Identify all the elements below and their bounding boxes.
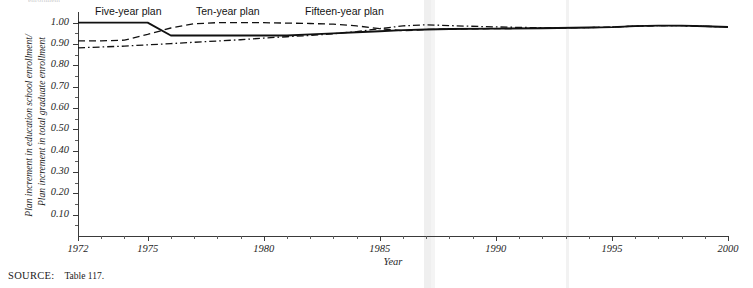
source-keyword: SOURCE: (8, 270, 54, 281)
series-line-five-year-plan (78, 23, 728, 36)
figure-panel: enrollment 1.000.900.800.700.600.500.400… (0, 0, 753, 288)
source-text: Table 117. (64, 271, 104, 281)
plot-lines (0, 0, 753, 288)
source-note: SOURCE:Table 117. (8, 270, 104, 281)
